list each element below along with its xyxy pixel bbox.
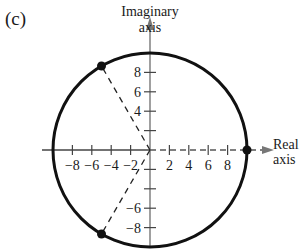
x-tick-label: −2 xyxy=(123,158,138,173)
y-tick-label: −8 xyxy=(126,221,141,236)
y-tick-label: 4 xyxy=(134,104,141,119)
data-point xyxy=(97,61,106,70)
x-tick-label: 8 xyxy=(224,158,231,173)
real-axis-label: Real xyxy=(273,137,299,152)
imaginary-axis-label: Imaginary xyxy=(121,4,179,19)
complex-plane-plot: −8−6−4−22468864−6−8ImaginaryaxisRealaxis xyxy=(0,0,305,250)
x-tick-label: 6 xyxy=(205,158,212,173)
x-tick-label: −6 xyxy=(84,158,99,173)
x-tick-label: −4 xyxy=(104,158,119,173)
y-tick-label: −6 xyxy=(126,201,141,216)
dashed-ray xyxy=(102,66,151,150)
real-axis-label: axis xyxy=(273,152,296,167)
x-tick-label: 4 xyxy=(185,158,192,173)
y-tick-label: 6 xyxy=(134,85,141,100)
data-point xyxy=(243,146,252,155)
imaginary-axis-label: axis xyxy=(139,20,162,35)
data-point xyxy=(97,230,106,239)
x-tick-label: 2 xyxy=(166,158,173,173)
y-tick-label: 8 xyxy=(134,65,141,80)
x-tick-label: −8 xyxy=(65,158,80,173)
